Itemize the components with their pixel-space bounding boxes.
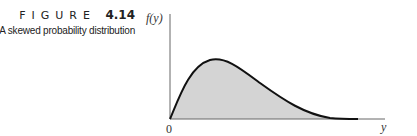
x-origin-label: 0 — [166, 122, 172, 136]
y-axis-label: f(y) — [146, 11, 163, 25]
x-axis-label: y — [380, 120, 387, 134]
chart: f(y) 0 y — [0, 0, 417, 136]
